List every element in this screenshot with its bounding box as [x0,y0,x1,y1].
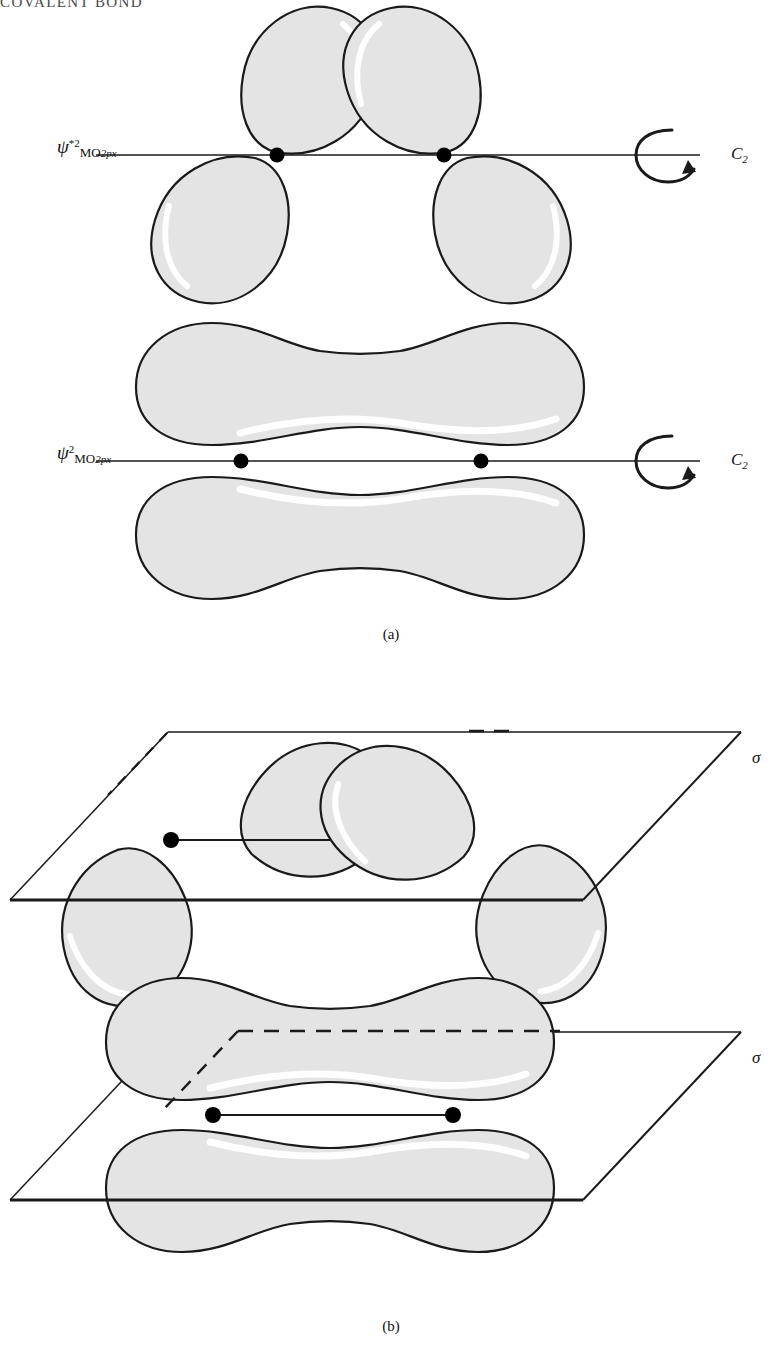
c2-letter: C [731,450,742,469]
nucleus-dot [445,1107,461,1123]
c2-rotation-arrow-icon [636,130,696,182]
c2-subscript: 2 [742,459,748,471]
c2-rotation-arrow-icon [636,436,696,488]
nucleus-dot [437,148,452,163]
nucleus-dot [474,454,489,469]
orbital-lobe [106,978,554,1100]
orbital-lobe [151,156,288,303]
psi-symbol: ψ [57,442,69,463]
figure-canvas: COVALENT BOND [0,0,782,1351]
nucleus-dot [163,832,179,848]
psi-subscript-mo: MO [80,145,101,160]
psi-superscript: *2 [69,137,80,149]
panel-caption-b: (b) [361,1318,421,1335]
antibonding-orbital-sigma [10,713,741,1028]
sigma-plane-label-top: σ [752,748,760,768]
bonding-orbital-c2 [96,323,700,599]
nucleus-dot [270,148,285,163]
nucleus-dot [205,1107,221,1123]
panel-a-graphics [0,0,782,660]
c2-subscript: 2 [742,153,748,165]
c2-axis-label-top: C2 [731,144,748,165]
antibonding-orbital-c2 [96,7,700,304]
psi-subscript-detail: 2px [95,453,111,465]
orbital-lobe [106,1130,554,1252]
panel-caption-a: (a) [361,626,421,643]
sigma-plane-label-bottom: σ [752,1048,760,1068]
orbital-label-bonding: ψ2MO2px [57,443,111,465]
orbital-lobe [136,477,584,599]
bonding-orbital-sigma [10,978,741,1252]
panel-b-graphics [0,700,782,1340]
psi-subscript-mo: MO [74,451,95,466]
orbital-lobe [433,156,570,303]
orbital-lobe [343,7,480,154]
nucleus-dot [234,454,249,469]
psi-subscript-detail: 2px [101,147,117,159]
orbital-lobe [136,323,584,445]
psi-symbol: ψ [57,136,69,157]
c2-axis-label-bottom: C2 [731,450,748,471]
c2-letter: C [731,144,742,163]
orbital-label-antibonding: ψ*2MO2px [57,137,117,159]
